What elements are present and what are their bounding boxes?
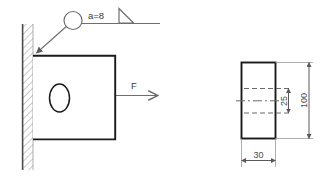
bracket-plate	[33, 55, 116, 140]
force-label: F	[131, 80, 137, 91]
overall-height-dimension: 100	[299, 63, 309, 139]
plate-face	[33, 55, 116, 140]
fixed-wall	[22, 24, 33, 170]
oval-hole	[50, 84, 70, 112]
drawing-svg: F a=8	[0, 0, 331, 182]
side-view: 25 100 30	[236, 63, 313, 168]
dimension-value-100: 100	[299, 93, 309, 108]
fillet-weld-symbol: a=8	[37, 9, 161, 54]
dimension-value-25: 25	[279, 96, 289, 106]
dimension-value-30: 30	[253, 150, 263, 160]
weld-reference-circle	[64, 12, 82, 30]
weld-leader-line	[37, 25, 69, 53]
force-indicator: F	[116, 80, 158, 96]
width-dimension: 30	[242, 150, 276, 161]
engineering-drawing-canvas: F a=8	[0, 0, 331, 182]
fillet-triangle-icon	[119, 9, 134, 24]
weld-throat-label: a=8	[88, 10, 104, 21]
wall-hatch-area	[22, 24, 33, 170]
front-view: F a=8	[22, 9, 160, 171]
hole-height-dimension: 25	[279, 89, 289, 114]
